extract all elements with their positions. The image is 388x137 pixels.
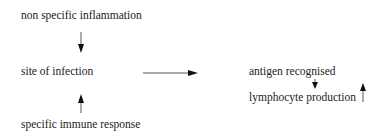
arrow-right-icon: [143, 70, 198, 76]
arrows-layer: [0, 0, 388, 137]
arrow-down-icon: [312, 79, 318, 89]
arrow-up-icon: [78, 94, 84, 113]
arrow-down-icon: [78, 32, 84, 53]
arrow-up-increase-icon: [360, 83, 366, 102]
